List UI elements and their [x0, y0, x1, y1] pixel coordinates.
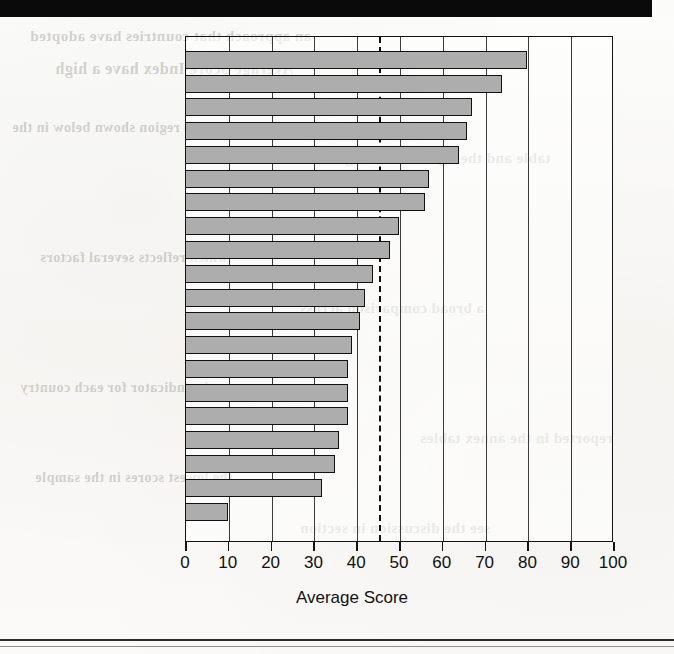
- bar-colombia: [185, 241, 390, 259]
- bar-el-salvador: [185, 455, 335, 473]
- x-axis-label-text: Average Score: [296, 588, 408, 607]
- x-tick-40: [356, 542, 358, 551]
- bar-row: Colombia: [185, 241, 613, 259]
- bar-row: Guatemala: [185, 479, 613, 497]
- bar-row: Bolivia: [185, 265, 613, 283]
- x-tick-label-60: 60: [432, 553, 451, 573]
- bar-chart: UruguayUnited StatesChileBrazilArgentina…: [0, 0, 674, 654]
- x-tick-label-100: 100: [599, 553, 627, 573]
- bar-row: Dominican Rep.: [185, 384, 613, 402]
- x-tick-90: [570, 542, 572, 551]
- bar-panama: [185, 407, 348, 425]
- bar-row: Uruguay: [185, 51, 613, 69]
- bar-costa-rica: [185, 170, 429, 188]
- bar-peru: [185, 336, 352, 354]
- bar-united-states: [185, 75, 502, 93]
- bar-venezuela: [185, 217, 399, 235]
- bar-row: Mexico: [185, 193, 613, 211]
- x-tick-label-50: 50: [390, 553, 409, 573]
- bar-row: Argentina: [185, 146, 613, 164]
- bar-argentina: [185, 146, 459, 164]
- x-tick-label-10: 10: [218, 553, 237, 573]
- bar-haiti: [185, 503, 228, 521]
- bar-row: Haiti: [185, 503, 613, 521]
- x-tick-label-30: 30: [304, 553, 323, 573]
- bar-row: Panama: [185, 407, 613, 425]
- x-tick-80: [527, 542, 529, 551]
- bars-layer: UruguayUnited StatesChileBrazilArgentina…: [185, 36, 613, 542]
- x-tick-10: [228, 542, 230, 551]
- x-tick-50: [399, 542, 401, 551]
- bar-row: Brazil: [185, 122, 613, 140]
- bar-honduras: [185, 360, 348, 378]
- x-axis-label: Average Score: [0, 588, 674, 608]
- x-tick-100: [613, 542, 615, 551]
- x-tick-label-0: 0: [180, 553, 189, 573]
- x-tick-60: [442, 542, 444, 551]
- bar-row: El Salvador: [185, 455, 613, 473]
- bar-row: Honduras: [185, 360, 613, 378]
- bar-bolivia: [185, 265, 373, 283]
- x-tick-label-20: 20: [261, 553, 280, 573]
- bar-row: Costa Rica: [185, 170, 613, 188]
- bar-uruguay: [185, 51, 527, 69]
- x-tick-70: [485, 542, 487, 551]
- bar-chile: [185, 98, 472, 116]
- bar-guatemala: [185, 479, 322, 497]
- bar-brazil: [185, 122, 467, 140]
- x-tick-label-90: 90: [561, 553, 580, 573]
- bar-row: United States: [185, 75, 613, 93]
- x-tick-30: [313, 542, 315, 551]
- bar-row: Paraguay: [185, 431, 613, 449]
- bar-row: Chile: [185, 98, 613, 116]
- bar-row: Venezuela: [185, 217, 613, 235]
- bar-row: Ecuador: [185, 312, 613, 330]
- bar-row: Nicaragua: [185, 289, 613, 307]
- bar-ecuador: [185, 312, 360, 330]
- x-tick-label-80: 80: [518, 553, 537, 573]
- x-tick-label-40: 40: [347, 553, 366, 573]
- bar-row: Peru: [185, 336, 613, 354]
- x-tick-20: [271, 542, 273, 551]
- bar-nicaragua: [185, 289, 365, 307]
- bar-mexico: [185, 193, 425, 211]
- bar-paraguay: [185, 431, 339, 449]
- x-tick-label-70: 70: [475, 553, 494, 573]
- bar-dominican-rep: [185, 384, 348, 402]
- x-tick-0: [185, 542, 187, 551]
